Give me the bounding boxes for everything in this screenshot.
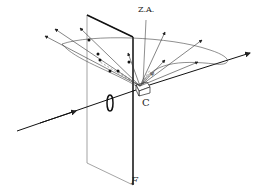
film-aperture bbox=[107, 95, 113, 111]
incident-beam bbox=[17, 90, 136, 131]
film-plane bbox=[87, 15, 133, 185]
crystal-label: C bbox=[142, 97, 150, 108]
zone-axis-label: Z.A. bbox=[138, 5, 154, 14]
svg-text:φ: φ bbox=[150, 69, 154, 77]
diffraction-diagram: φ bbox=[0, 0, 263, 193]
transmitted-beam bbox=[140, 53, 250, 88]
diffracted-beams bbox=[45, 28, 202, 86]
film-label: F bbox=[131, 175, 138, 186]
